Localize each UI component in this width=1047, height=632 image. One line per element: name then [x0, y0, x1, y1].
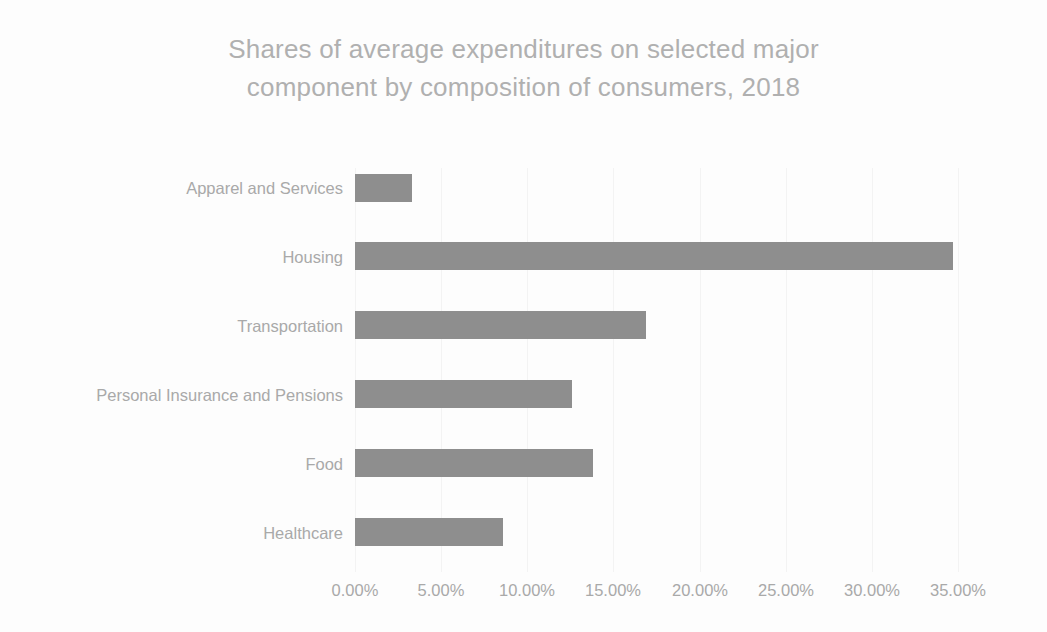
chart-title: Shares of average expenditures on select…: [0, 30, 1047, 106]
x-axis-tick-labels: 0.00% 5.00% 10.00% 15.00% 20.00% 25.00% …: [355, 580, 958, 620]
category-label-food: Food: [305, 454, 343, 474]
bar-healthcare: [355, 518, 503, 546]
x-tick-label-25: 25.00%: [758, 580, 814, 600]
category-label-transportation: Transportation: [237, 316, 343, 336]
plot-area: Apparel and Services Housing Transportat…: [355, 168, 958, 572]
bar-row: [355, 443, 958, 511]
bar-row: [355, 305, 958, 373]
bar-row: [355, 374, 958, 442]
category-label-personal-insurance-and-pensions: Personal Insurance and Pensions: [96, 385, 343, 405]
x-tick-label-0: 0.00%: [332, 580, 379, 600]
bar-housing: [355, 242, 953, 270]
x-tick-label-15: 15.00%: [585, 580, 641, 600]
chart-title-line-1: Shares of average expenditures on select…: [228, 34, 819, 64]
category-axis-labels: Apparel and Services Housing Transportat…: [0, 168, 343, 572]
x-tick-label-30: 30.00%: [844, 580, 900, 600]
bar-row: [355, 512, 958, 580]
bar-personal-insurance-and-pensions: [355, 380, 572, 408]
bar-row: [355, 236, 958, 304]
bar-row: [355, 168, 958, 236]
category-label-healthcare: Healthcare: [263, 523, 343, 543]
chart-title-line-2: component by composition of consumers, 2…: [247, 72, 800, 102]
bar-transportation: [355, 311, 646, 339]
x-tick-label-20: 20.00%: [672, 580, 728, 600]
x-tick-label-35: 35.00%: [930, 580, 986, 600]
bar-food: [355, 449, 593, 477]
gridline-35: [958, 168, 959, 572]
x-tick-label-10: 10.00%: [499, 580, 555, 600]
bar-apparel-and-services: [355, 174, 412, 202]
x-tick-label-5: 5.00%: [418, 580, 465, 600]
bar-chart-figure: Shares of average expenditures on select…: [0, 0, 1047, 632]
category-label-apparel-and-services: Apparel and Services: [186, 178, 343, 198]
category-label-housing: Housing: [282, 247, 343, 267]
